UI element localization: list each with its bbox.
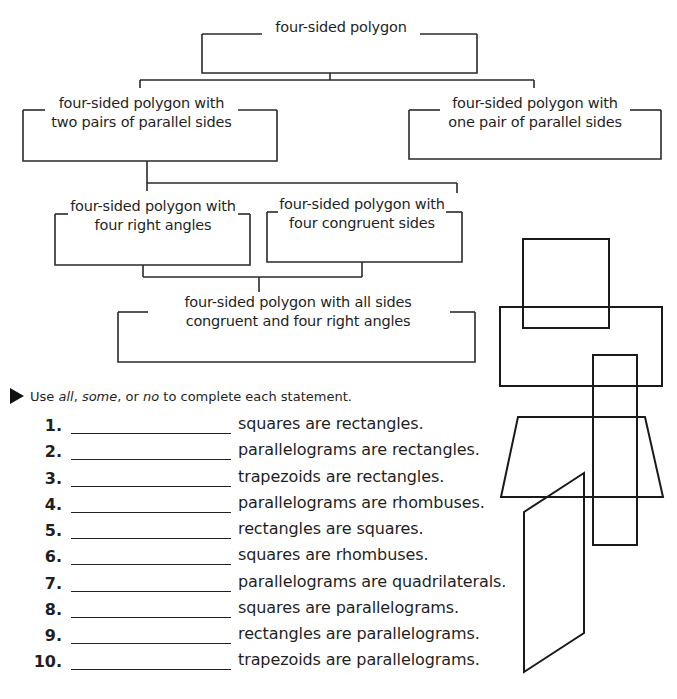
node-one-pair-label: four-sided polygon with one pair of para… <box>440 94 630 132</box>
square-shape <box>523 239 609 328</box>
tall-rectangle-shape <box>593 355 637 545</box>
node-right-angles-label: four-sided polygon with four right angle… <box>68 197 238 235</box>
node-two-pairs-label: four-sided polygon with two pairs of par… <box>45 94 238 132</box>
answer-blank-9[interactable] <box>71 643 231 644</box>
play-arrow-icon <box>10 388 24 404</box>
answer-blank-5[interactable] <box>71 538 231 539</box>
node-congruent-sides-label: four-sided polygon with four congruent s… <box>278 195 446 233</box>
answer-blank-4[interactable] <box>71 512 231 513</box>
answer-blank-10[interactable] <box>71 669 231 670</box>
answer-blank-7[interactable] <box>71 591 231 592</box>
answer-blank-3[interactable] <box>71 486 231 487</box>
trapezoid-shape <box>501 417 663 497</box>
instructions: Use all, some, or no to complete each st… <box>10 388 352 404</box>
answer-blank-1[interactable] <box>71 433 231 434</box>
answer-blank-2[interactable] <box>71 459 231 460</box>
answer-blank-6[interactable] <box>71 564 231 565</box>
root-box <box>202 34 477 73</box>
node-root-label: four-sided polygon <box>262 18 420 37</box>
parallelogram-shape <box>524 473 584 672</box>
shapes-illustration <box>500 239 663 672</box>
node-all-label: four-sided polygon with all sides congru… <box>148 293 448 331</box>
answer-blank-8[interactable] <box>71 617 231 618</box>
